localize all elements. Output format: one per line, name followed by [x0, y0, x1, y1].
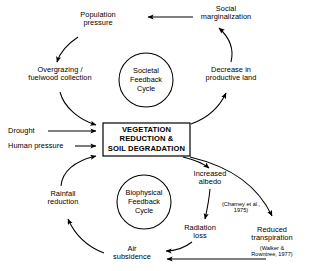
central-box-text: VEGETATION REDUCTION & SOIL DEGRADATION	[103, 125, 190, 153]
arrow-overgrazing-to-box	[60, 92, 96, 125]
node-increased-albedo: Increased albedo	[182, 170, 238, 186]
node-rainfall-reduction: Rainfall reduction	[33, 190, 93, 206]
societal-feedback-cycle-label: Societal Feedback Cycle	[106, 66, 186, 93]
biophysical-line-2: Feedback	[104, 197, 184, 206]
central-box-line-2: REDUCTION &	[103, 134, 190, 143]
node-reduced-transpiration: Reduced transpiration	[236, 226, 308, 242]
reduced-transpiration-line-2: transpiration	[236, 234, 308, 242]
decrease-land-line-2: productive land	[189, 74, 273, 82]
human-pressure-line-1: Human pressure	[8, 142, 78, 150]
air-subsidence-line-2: subsidence	[100, 253, 164, 261]
citation-charney: (Charney et al., 1975)	[210, 201, 272, 214]
societal-line-1: Societal	[106, 66, 186, 75]
overgrazing-line-2: fuelwood collection	[14, 74, 106, 82]
drought-line-1: Drought	[8, 127, 56, 135]
societal-line-2: Feedback	[106, 75, 186, 84]
citation-walker-rowntree: (Walker & Rowntree, 1977)	[234, 245, 310, 258]
arrow-radiation-to-air-subsidence	[166, 242, 192, 251]
arrow-air-subsidence-to-rainfall	[68, 219, 104, 253]
biophysical-line-1: Biophysical	[104, 188, 184, 197]
rainfall-reduction-line-2: reduction	[33, 198, 93, 206]
node-decrease-productive-land: Decrease in productive land	[189, 66, 273, 82]
central-box-line-3: SOIL DEGRADATION	[103, 144, 190, 153]
node-social-marginalization: Social marginalization	[185, 5, 267, 21]
node-population-pressure: Population pressure	[68, 11, 128, 27]
node-air-subsidence: Air subsidence	[100, 245, 164, 261]
charney-line-2: 1975)	[210, 207, 272, 213]
arrow-decrease-land-to-social	[219, 28, 232, 62]
node-human-pressure: Human pressure	[8, 142, 78, 150]
population-pressure-line-2: pressure	[68, 19, 128, 27]
central-box-line-1: VEGETATION	[103, 125, 190, 134]
biophysical-line-3: Cycle	[104, 206, 184, 215]
societal-line-3: Cycle	[106, 84, 186, 93]
node-drought: Drought	[8, 127, 56, 135]
biophysical-feedback-cycle-label: Biophysical Feedback Cycle	[104, 188, 184, 215]
arrow-population-to-overgrazing	[57, 37, 78, 62]
node-radiation-loss: Radiation loss	[172, 224, 228, 240]
arrow-rainfall-to-box	[61, 156, 96, 186]
radiation-loss-line-2: loss	[172, 232, 228, 240]
arrow-box-to-decrease-land	[191, 93, 226, 124]
social-marginalization-line-2: marginalization	[185, 13, 267, 21]
increased-albedo-line-2: albedo	[182, 178, 238, 186]
node-overgrazing-fuelwood: Overgrazing / fuelwood collection	[14, 66, 106, 82]
walker-line-2: Rowntree, 1977)	[234, 251, 310, 257]
